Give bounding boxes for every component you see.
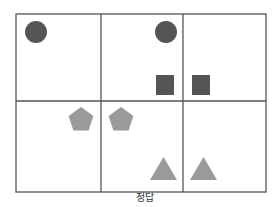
pentagon-icon xyxy=(109,107,134,131)
square-icon xyxy=(192,75,210,95)
circle-icon xyxy=(155,21,177,43)
grid xyxy=(16,14,266,192)
circle-icon xyxy=(25,21,47,43)
triangle-icon xyxy=(190,157,217,180)
triangle-icon xyxy=(150,157,177,180)
pentagon-icon xyxy=(69,107,94,131)
shape-grid-diagram xyxy=(0,0,279,207)
grid-border xyxy=(16,14,266,192)
caption-answer-label: 정답 xyxy=(0,189,279,204)
square-icon xyxy=(156,75,174,95)
